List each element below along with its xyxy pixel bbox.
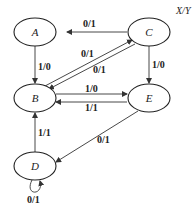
edge-d-to-b: 1/1 bbox=[35, 113, 51, 152]
svg-text:0/1: 0/1 bbox=[93, 64, 106, 75]
edge-e-to-b: 1/1 bbox=[56, 102, 127, 113]
svg-text:0/1: 0/1 bbox=[97, 134, 110, 145]
state-c: C bbox=[128, 18, 170, 46]
svg-text:A: A bbox=[31, 26, 39, 38]
edge-d-self-loop: 0/1 bbox=[27, 180, 41, 205]
state-d: D bbox=[14, 152, 56, 180]
svg-text:1/0: 1/0 bbox=[38, 61, 51, 72]
svg-text:0/1: 0/1 bbox=[81, 48, 94, 59]
svg-text:0/1: 0/1 bbox=[27, 194, 40, 205]
edge-c-to-a: 0/1 bbox=[67, 18, 127, 32]
svg-text:C: C bbox=[145, 26, 153, 38]
state-a: A bbox=[14, 18, 56, 46]
svg-text:B: B bbox=[32, 92, 39, 104]
svg-text:1/1: 1/1 bbox=[85, 102, 98, 113]
svg-text:D: D bbox=[30, 160, 39, 172]
state-b: B bbox=[14, 84, 56, 112]
edge-b-to-c: 0/1 bbox=[45, 40, 132, 86]
edge-e-to-d: 0/1 bbox=[56, 111, 138, 162]
svg-text:0/1: 0/1 bbox=[83, 18, 96, 29]
state-diagram: X/Y 0/1 1/0 0/1 0/1 1/0 1/0 1/1 0/1 1/1 … bbox=[0, 0, 194, 213]
edge-b-to-e: 1/0 bbox=[56, 83, 127, 94]
edge-c-to-e: 1/0 bbox=[149, 46, 165, 83]
state-e: E bbox=[128, 84, 170, 112]
edge-a-to-b: 1/0 bbox=[35, 46, 51, 83]
svg-text:1/0: 1/0 bbox=[85, 83, 98, 94]
svg-text:E: E bbox=[145, 92, 153, 104]
svg-text:1/1: 1/1 bbox=[38, 127, 51, 138]
legend-xy: X/Y bbox=[175, 5, 192, 16]
svg-text:1/0: 1/0 bbox=[152, 59, 165, 70]
